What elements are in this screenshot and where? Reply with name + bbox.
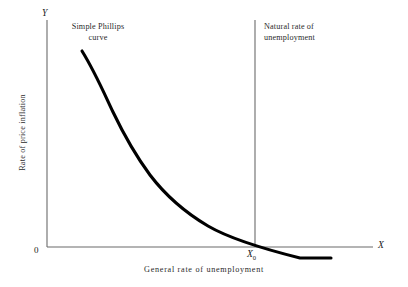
origin-label: 0: [34, 245, 39, 255]
chart-canvas: [0, 0, 408, 287]
curve-annotation-label: Simple Phillips curve: [56, 22, 140, 43]
x-axis-letter: X: [378, 240, 384, 250]
y-axis-letter: Y: [42, 8, 47, 18]
y-axis-title: Rate of price inflation: [18, 73, 27, 193]
phillips-curve-figure: Simple Phillips curve Natural rate of un…: [0, 0, 408, 287]
phillips-curve-line: [82, 51, 331, 258]
x-axis-title: General rate of unemployment: [84, 265, 324, 274]
x0-tick-label: X0: [247, 249, 256, 261]
x0-tick-subscript: 0: [253, 254, 256, 261]
natural-rate-annotation-label: Natural rate of unemployment: [264, 22, 374, 43]
